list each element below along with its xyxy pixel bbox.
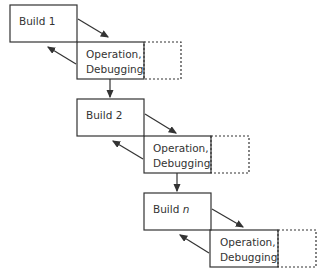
arrow-buildn-to-opn [212, 209, 243, 227]
build-2-label: Build 2 [86, 108, 122, 123]
arrow-op1-to-build1 [48, 47, 76, 64]
arrow-build1-to-op1 [78, 19, 108, 37]
arrow-build2-to-op2 [145, 114, 176, 133]
operation-n-extension [278, 230, 316, 267]
operation-2-label: Operation,Debugging [153, 141, 210, 171]
operation-1-extension [144, 42, 181, 79]
build-1-label: Build 1 [19, 14, 55, 29]
operation-1-label: Operation,Debugging [86, 47, 143, 77]
operation-2-extension [211, 136, 249, 173]
arrow-op2-to-build2 [113, 141, 143, 159]
arrow-opn-to-buildn [180, 235, 209, 253]
build-n-label: Build n [153, 202, 189, 217]
operation-n-label: Operation,Debugging [220, 235, 277, 265]
